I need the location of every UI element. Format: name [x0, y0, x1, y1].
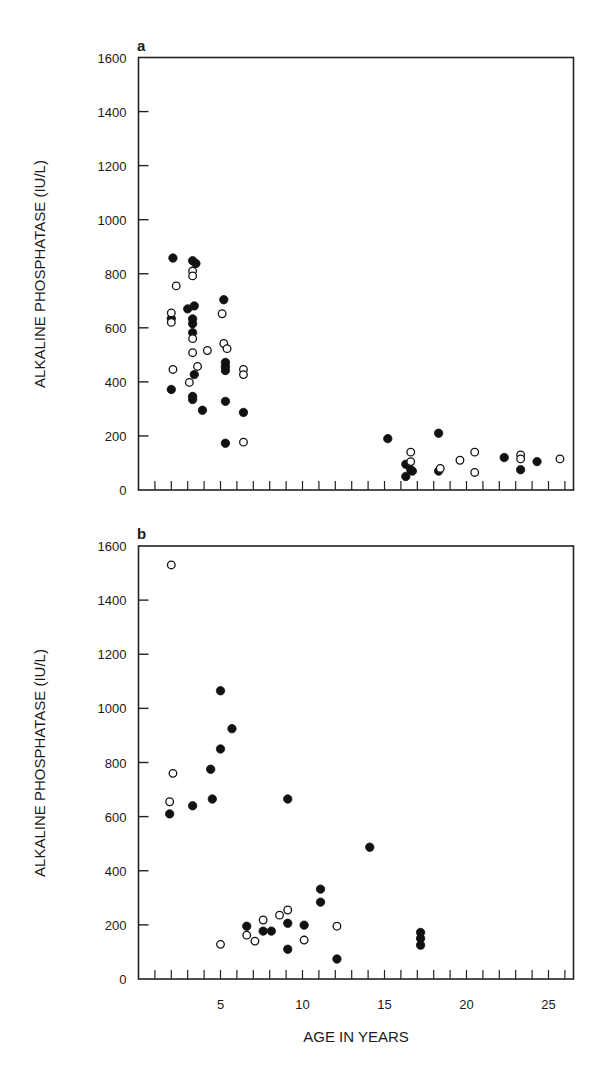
- data-point-open: [436, 465, 444, 473]
- y-ticks-b: 02004006008001000120014001600: [98, 539, 149, 987]
- y-tick-label: 1600: [98, 51, 127, 66]
- data-point-open: [251, 937, 259, 945]
- data-point-open: [172, 282, 180, 290]
- data-point-filled: [192, 259, 200, 267]
- data-point-filled: [434, 429, 442, 437]
- x-axis-title: AGE IN YEARS: [303, 1028, 409, 1045]
- data-points-a: [167, 254, 564, 481]
- data-point-filled: [165, 810, 173, 818]
- data-point-open: [189, 335, 197, 343]
- y-tick-label: 400: [105, 864, 127, 879]
- data-point-filled: [239, 408, 247, 416]
- y-tick-label: 600: [105, 321, 127, 336]
- data-point-filled: [366, 843, 374, 851]
- data-point-filled: [500, 453, 508, 461]
- data-point-filled: [300, 921, 308, 929]
- panel-b: b ALKALINE PHOSPHATASE (IU/L) 0200400600…: [31, 525, 574, 1045]
- data-point-filled: [221, 397, 229, 405]
- y-tick-label: 200: [105, 918, 127, 933]
- y-tick-label: 1000: [98, 701, 127, 716]
- data-point-filled: [167, 385, 175, 393]
- y-tick-label: 0: [119, 483, 126, 498]
- data-point-open: [204, 347, 212, 355]
- data-point-open: [300, 936, 308, 944]
- data-point-open: [168, 319, 176, 327]
- y-tick-label: 0: [119, 972, 126, 987]
- y-tick-label: 400: [105, 375, 127, 390]
- data-point-filled: [190, 302, 198, 310]
- data-point-filled: [402, 472, 410, 480]
- data-point-open: [333, 922, 341, 930]
- y-tick-label: 1200: [98, 647, 127, 662]
- y-axis-title-b: ALKALINE PHOSPHATASE (IU/L): [31, 649, 48, 877]
- data-point-filled: [284, 919, 292, 927]
- data-point-open: [169, 770, 177, 778]
- data-point-filled: [188, 802, 196, 810]
- plot-frame-b: [139, 546, 574, 979]
- y-tick-label: 1600: [98, 539, 127, 554]
- y-tick-label: 800: [105, 756, 127, 771]
- data-point-filled: [284, 795, 292, 803]
- data-point-filled: [384, 434, 392, 442]
- data-point-filled: [190, 370, 198, 378]
- data-point-filled: [416, 941, 424, 949]
- data-point-open: [186, 379, 194, 387]
- data-point-filled: [198, 406, 206, 414]
- data-point-filled: [216, 687, 224, 695]
- x-ticks-b: [155, 970, 565, 979]
- data-points-b: [165, 561, 424, 963]
- data-point-filled: [267, 927, 275, 935]
- data-point-filled: [316, 885, 324, 893]
- y-axis-title-a: ALKALINE PHOSPHATASE (IU/L): [31, 160, 48, 388]
- x-tick-labels-b: 510152025: [217, 997, 556, 1012]
- data-point-filled: [533, 457, 541, 465]
- data-point-filled: [516, 466, 524, 474]
- data-point-open: [240, 438, 248, 446]
- x-tick-label: 10: [295, 997, 309, 1012]
- panel-a: a ALKALINE PHOSPHATASE (IU/L) 0200400600…: [31, 37, 574, 498]
- data-point-filled: [216, 745, 224, 753]
- data-point-filled: [221, 439, 229, 447]
- x-tick-label: 15: [377, 997, 391, 1012]
- data-point-filled: [188, 320, 196, 328]
- data-point-filled: [284, 945, 292, 953]
- panel-letter-b: b: [137, 525, 146, 542]
- data-point-filled: [206, 765, 214, 773]
- data-point-filled: [220, 296, 228, 304]
- data-point-open: [223, 345, 231, 353]
- data-point-filled: [188, 395, 196, 403]
- data-point-open: [407, 448, 415, 456]
- data-point-open: [517, 455, 525, 463]
- x-tick-label: 25: [541, 997, 555, 1012]
- data-point-filled: [169, 254, 177, 262]
- data-point-filled: [228, 724, 236, 732]
- data-point-open: [259, 916, 267, 924]
- x-tick-label: 5: [217, 997, 224, 1012]
- y-tick-label: 200: [105, 429, 127, 444]
- panel-letter-a: a: [137, 37, 146, 54]
- data-point-open: [276, 911, 284, 919]
- data-point-filled: [221, 366, 229, 374]
- data-point-open: [284, 906, 292, 914]
- plot-frame-a: [139, 58, 574, 491]
- data-point-open: [168, 561, 176, 569]
- data-point-filled: [208, 795, 216, 803]
- data-point-open: [471, 469, 479, 477]
- data-point-open: [217, 941, 225, 949]
- y-tick-label: 1400: [98, 105, 127, 120]
- x-ticks-a: [155, 481, 565, 490]
- y-tick-label: 600: [105, 810, 127, 825]
- data-point-filled: [316, 898, 324, 906]
- y-tick-label: 800: [105, 267, 127, 282]
- y-ticks-a: 02004006008001000120014001600: [98, 51, 149, 499]
- data-point-open: [407, 458, 415, 466]
- y-tick-label: 1200: [98, 159, 127, 174]
- data-point-open: [218, 310, 226, 318]
- data-point-open: [168, 309, 176, 317]
- figure: a ALKALINE PHOSPHATASE (IU/L) 0200400600…: [0, 0, 607, 1070]
- data-point-open: [471, 448, 479, 456]
- data-point-open: [240, 371, 248, 379]
- data-point-open: [189, 272, 197, 280]
- data-point-open: [169, 366, 177, 374]
- data-point-filled: [259, 927, 267, 935]
